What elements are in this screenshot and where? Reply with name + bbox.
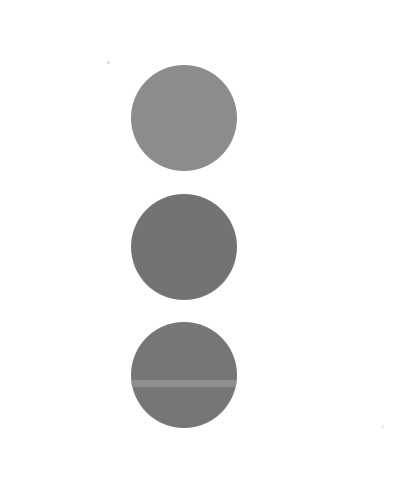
- speck-bottom-right: [381, 425, 384, 428]
- speck-top-left: [107, 61, 110, 64]
- middle-circle: [131, 194, 237, 300]
- top-circle: [131, 65, 237, 171]
- bottom-circle: [131, 322, 237, 428]
- bottom-circle-stripe: [131, 380, 237, 387]
